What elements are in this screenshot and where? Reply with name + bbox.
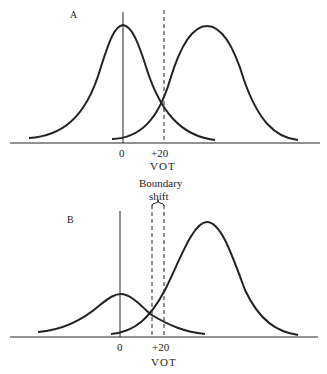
- panel-b-plot: [10, 200, 318, 337]
- panel-b-x-axis-label: VOT: [151, 357, 177, 368]
- panel-a-label: A: [70, 9, 77, 20]
- panel-a-plot: [10, 10, 320, 143]
- panel-b-right-curve: [111, 222, 298, 335]
- panel-b-label: B: [67, 214, 74, 225]
- panel-b-tick-20: +20: [152, 342, 169, 353]
- panel-a-tick-0: 0: [119, 148, 125, 159]
- panel-b-left-curve: [38, 294, 205, 334]
- panel-a-left-curve: [29, 25, 215, 140]
- boundary-shift-label-line1: Boundary: [139, 178, 182, 189]
- panel-b-tick-0: 0: [117, 342, 123, 353]
- panel-a-tick-20: +20: [151, 148, 168, 159]
- boundary-shift-label-line2: shift: [149, 191, 169, 202]
- panel-a-right-curve: [112, 26, 298, 140]
- panel-a-x-axis-label: VOT: [150, 161, 176, 172]
